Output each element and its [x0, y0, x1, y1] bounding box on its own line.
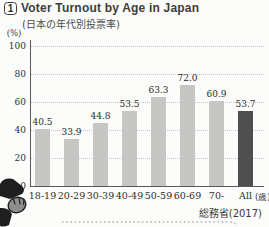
dotted-separator-line: [0, 0, 269, 227]
figure-voter-turnout: 1 Voter Turnout by Age in Japan (日本の年代別投…: [0, 0, 269, 227]
mascot-figure-icon: [0, 178, 36, 227]
